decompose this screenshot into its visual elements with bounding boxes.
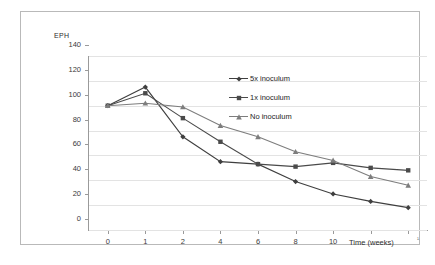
x-tick-label: 10: [321, 238, 345, 246]
legend-item-label: 5x inoculum: [250, 74, 290, 83]
y-tick-label: 40: [55, 165, 81, 173]
x-tick-label: 4: [208, 238, 232, 246]
y-axis-title: EPH: [54, 32, 69, 39]
legend-marker-triangle-icon: [229, 112, 248, 121]
data-point-marker: [236, 114, 242, 119]
y-tick-label: 60: [55, 140, 81, 148]
x-tick-label: 8: [284, 238, 308, 246]
chart-legend: 5x inoculum1x inoculumNo inoculum: [229, 69, 349, 126]
data-point-marker: [368, 199, 373, 204]
gridline: [89, 230, 427, 231]
data-point-marker: [218, 123, 224, 128]
data-point-marker: [143, 91, 147, 95]
legend-item-2[interactable]: 1x inoculum: [229, 88, 349, 107]
y-tick-label: 20: [55, 190, 81, 198]
data-point-marker: [406, 205, 411, 210]
legend-marker-diamond-icon: [229, 74, 248, 83]
y-tick-label: 120: [55, 66, 81, 74]
data-point-marker: [256, 162, 260, 166]
x-tick-label: 2: [171, 238, 195, 246]
y-tick-label: 0: [55, 215, 81, 223]
data-point-marker: [236, 96, 240, 100]
legend-item-label: 1x inoculum: [250, 93, 290, 102]
data-point-marker: [181, 116, 185, 120]
data-point-marker: [368, 174, 374, 179]
legend-item-3[interactable]: No inoculum: [229, 107, 349, 126]
data-point-marker: [293, 164, 297, 168]
legend-marker-square-icon: [229, 93, 248, 102]
data-point-marker: [368, 166, 372, 170]
y-tick-label: 140: [55, 41, 81, 49]
chart-frame: EPH 140120100806040200 01246810 Time (we…: [20, 11, 420, 245]
chart-screenshot: EPH 140120100806040200 01246810 Time (we…: [0, 0, 435, 265]
x-axis-title-superscript: ¹: [417, 236, 419, 242]
data-point-marker: [406, 168, 410, 172]
data-point-marker: [218, 140, 222, 144]
y-tick-label: 100: [55, 91, 81, 99]
y-tick-mark: [85, 45, 89, 46]
x-tick-label: 6: [246, 238, 270, 246]
data-point-marker: [331, 191, 336, 196]
data-point-marker: [293, 179, 298, 184]
x-axis-title: Time (weeks): [349, 238, 394, 247]
y-tick-label: 80: [55, 116, 81, 124]
x-tick-label: 1: [133, 238, 157, 246]
x-tick-label: 0: [96, 238, 120, 246]
legend-item-label: No inoculum: [250, 112, 292, 121]
data-point-marker: [236, 76, 241, 81]
legend-item-1[interactable]: 5x inoculum: [229, 69, 349, 88]
